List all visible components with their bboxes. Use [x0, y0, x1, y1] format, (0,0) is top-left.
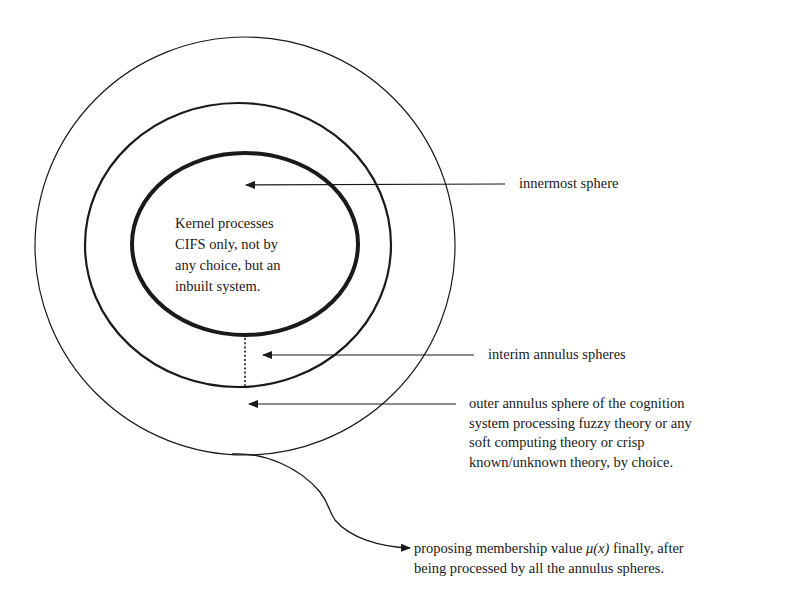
kernel-description: Kernel processes CIFS only, not by any c… [175, 213, 281, 297]
interim-sphere-label: interim annulus spheres [488, 344, 626, 364]
membership-label-line-1: proposing membership value μ(x) finally,… [414, 538, 684, 558]
concentric-spheres-diagram [0, 0, 796, 606]
kernel-line-4: inbuilt system. [175, 276, 281, 297]
membership-label-line-2: being processed by all the annulus spher… [414, 558, 684, 578]
membership-curve-arrow [232, 454, 410, 548]
outer-label-line-1: outer annulus sphere of the cognition [469, 394, 692, 414]
kernel-line-2: CIFS only, not by [175, 234, 281, 255]
outer-label-line-3: soft computing theory or crisp [469, 433, 692, 453]
membership-suffix: finally, after [609, 540, 683, 556]
innermost-arrow [246, 184, 505, 185]
membership-prefix: proposing membership value [414, 540, 586, 556]
innermost-sphere-label: innermost sphere [519, 173, 618, 193]
outer-sphere-label: outer annulus sphere of the cognition sy… [469, 394, 692, 472]
kernel-line-3: any choice, but an [175, 255, 281, 276]
outer-label-line-2: system processing fuzzy theory or any [469, 414, 692, 434]
kernel-line-1: Kernel processes [175, 213, 281, 234]
mu-symbol: μ(x) [586, 540, 609, 556]
membership-value-label: proposing membership value μ(x) finally,… [414, 538, 684, 578]
outer-label-line-4: known/unknown theory, by choice. [469, 453, 692, 473]
